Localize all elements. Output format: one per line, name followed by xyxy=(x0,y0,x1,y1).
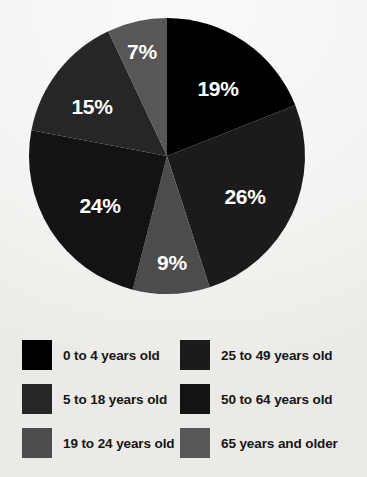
legend-item[interactable]: 50 to 64 years old xyxy=(180,377,352,421)
legend-color-swatch xyxy=(180,340,210,370)
pie-slice-data-label: 24% xyxy=(79,194,121,217)
pie-slice-data-label: 26% xyxy=(224,185,266,208)
legend-item[interactable]: 0 to 4 years old xyxy=(22,333,180,377)
legend-color-swatch xyxy=(180,384,210,414)
legend-item[interactable]: 65 years and older xyxy=(180,421,352,465)
legend-item-label: 25 to 49 years old xyxy=(221,348,333,363)
pie-slice-data-label: 15% xyxy=(71,95,113,118)
legend-color-swatch xyxy=(22,384,52,414)
pie-chart-svg: 19%26%9%24%15%7% xyxy=(0,0,367,318)
pie-slice-data-label: 7% xyxy=(127,40,157,63)
legend-color-swatch xyxy=(180,428,210,458)
legend-item-label: 19 to 24 years old xyxy=(63,436,175,451)
legend-item[interactable]: 19 to 24 years old xyxy=(22,421,180,465)
legend-item-label: 5 to 18 years old xyxy=(63,392,167,407)
pie-chart: 19%26%9%24%15%7% xyxy=(0,0,367,318)
legend-item-label: 0 to 4 years old xyxy=(63,348,160,363)
pie-slice-data-label: 19% xyxy=(197,77,239,100)
legend-item[interactable]: 25 to 49 years old xyxy=(180,333,352,377)
legend-color-swatch xyxy=(22,428,52,458)
legend-item[interactable]: 5 to 18 years old xyxy=(22,377,180,421)
legend-item-label: 50 to 64 years old xyxy=(221,392,333,407)
pie-slice-data-label: 9% xyxy=(157,251,187,274)
legend-color-swatch xyxy=(22,340,52,370)
legend-item-label: 65 years and older xyxy=(221,436,338,451)
chart-legend: 0 to 4 years old25 to 49 years old5 to 1… xyxy=(22,333,352,465)
